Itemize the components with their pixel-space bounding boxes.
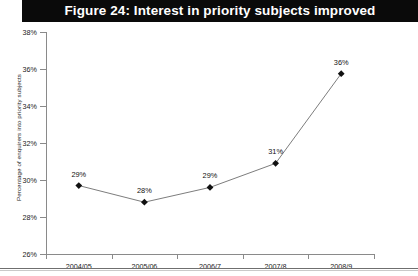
data-point-marker — [141, 199, 148, 206]
figure-title-banner: Figure 24: Interest in priority subjects… — [22, 0, 418, 22]
data-point-marker — [75, 182, 82, 189]
data-point-label: 29% — [187, 171, 233, 180]
series-polyline — [79, 74, 341, 203]
series-markers — [75, 70, 344, 205]
data-point-marker — [272, 160, 279, 167]
data-point-label: 36% — [318, 58, 364, 67]
data-point-label: 29% — [56, 170, 102, 179]
page-title: Figure 24: Interest in priority subjects… — [65, 4, 376, 18]
footer-rule-secondary — [0, 270, 418, 271]
data-point-label: 31% — [253, 147, 299, 156]
data-point-marker — [207, 184, 214, 191]
data-point-label: 28% — [121, 186, 167, 195]
chart-figure: Percentage of enquirers into priority su… — [0, 22, 418, 276]
footer-rule — [0, 268, 418, 269]
data-point-marker — [338, 70, 345, 77]
